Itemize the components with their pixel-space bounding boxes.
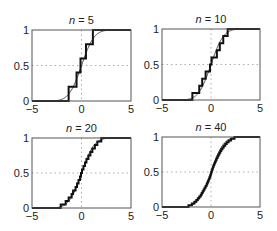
x-tick-label: 5	[128, 210, 134, 222]
y-tick-label: 0.5	[144, 166, 159, 178]
x-tick-label: 0	[208, 102, 214, 114]
subplot-n-10: 00.51−505n = 10	[144, 13, 263, 114]
y-tick-label: 1	[153, 131, 159, 143]
x-tick-label: 5	[128, 103, 134, 115]
x-tick-label: −5	[156, 102, 169, 114]
x-tick-label: 5	[257, 102, 263, 114]
x-tick-label: 0	[78, 210, 84, 222]
x-tick-label: −5	[26, 210, 39, 222]
ecdf-figure: 00.51−505n = 500.51−505n = 1000.51−505n …	[0, 0, 277, 231]
subplot-title: n = 40	[196, 121, 227, 133]
y-tick-label: 0.5	[14, 60, 29, 72]
subplot-n-5: 00.51−505n = 5	[14, 14, 134, 115]
subplot-n-20: 00.51−505n = 20	[14, 122, 134, 222]
subplot-title: n = 20	[66, 122, 97, 134]
subplot-n-40: 00.51−505n = 40	[144, 121, 263, 221]
x-tick-label: −5	[26, 103, 39, 115]
subplot-title: n = 5	[69, 14, 94, 26]
y-tick-label: 1	[153, 23, 159, 35]
x-tick-label: −5	[156, 209, 169, 221]
y-tick-label: 0.5	[14, 167, 29, 179]
x-tick-label: 0	[78, 103, 84, 115]
y-tick-label: 0.5	[144, 59, 159, 71]
y-tick-label: 1	[23, 132, 29, 144]
x-tick-label: 5	[257, 209, 263, 221]
subplot-title: n = 10	[196, 13, 227, 25]
x-tick-label: 0	[208, 209, 214, 221]
y-tick-label: 1	[23, 24, 29, 36]
